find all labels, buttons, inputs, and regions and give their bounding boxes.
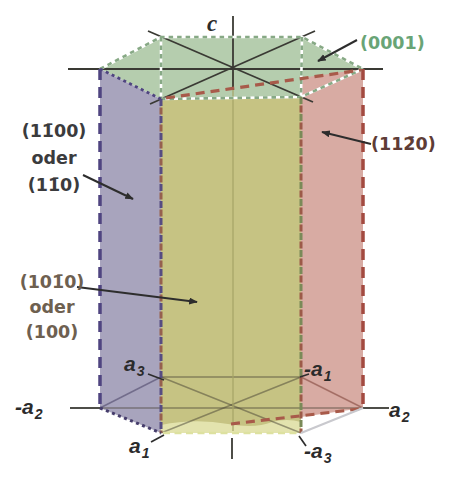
label-axis-a3: a3	[124, 353, 143, 374]
label-axis-a2: a2	[389, 399, 408, 420]
label-line: (101̄0)	[4, 270, 100, 295]
front-face-1010	[161, 97, 301, 433]
label-line: (100)	[4, 320, 100, 345]
label-axis-a1: a1	[129, 435, 148, 456]
label-line: oder	[6, 145, 102, 172]
label-plane-0001: (0001)	[360, 30, 425, 57]
prism-drawing	[0, 0, 454, 484]
label-axis-neg-a2: -a2	[15, 396, 41, 417]
label-line: (11̄0)	[6, 172, 102, 199]
label-axis-neg-a1: -a1	[304, 358, 330, 379]
c-axis-label: c	[207, 12, 217, 35]
left-face-1100	[100, 69, 161, 433]
label-line: (11̄00)	[6, 118, 102, 145]
label-plane-1010: (101̄0) oder (100)	[4, 270, 100, 345]
label-line: oder	[4, 295, 100, 320]
label-axis-neg-a3: -a3	[304, 440, 330, 461]
label-plane-1100: (11̄00) oder (11̄0)	[6, 118, 102, 199]
hexagonal-crystal-planes-diagram: c (0001) (11̄00) oder (11̄0) (112̄0) (10…	[0, 0, 454, 484]
label-plane-1120: (112̄0)	[371, 131, 436, 158]
